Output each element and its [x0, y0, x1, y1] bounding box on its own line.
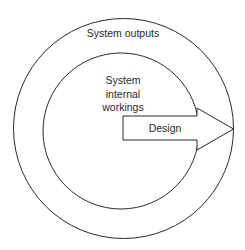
internal-label-line-2: internal: [88, 88, 158, 102]
system-outputs-label: System outputs: [78, 27, 168, 41]
design-arrow-label: Design: [135, 122, 195, 136]
internal-label-line-3: workings: [88, 101, 158, 115]
internal-label-line-1: System: [88, 74, 158, 88]
system-internal-workings-label: System internal workings: [88, 74, 158, 115]
